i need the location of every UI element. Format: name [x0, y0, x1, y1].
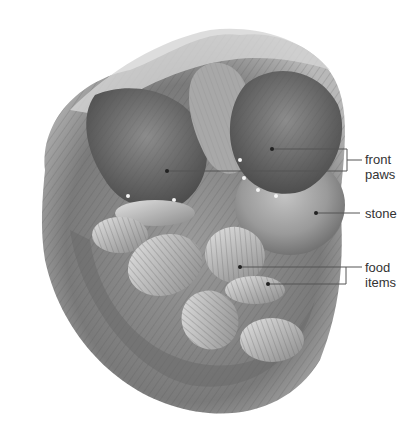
label-stone-text: stone — [365, 206, 397, 221]
illustration-drawing — [0, 0, 409, 434]
label-stone: stone — [365, 206, 397, 221]
otter-illustration: front paws stone food items — [0, 0, 409, 434]
label-front-paws-line2: paws — [365, 167, 395, 182]
label-front-paws: front paws — [365, 152, 395, 182]
label-food-items: food items — [365, 260, 396, 290]
label-food-items-line2: items — [365, 275, 396, 290]
label-front-paws-line1: front — [365, 152, 395, 167]
label-food-items-line1: food — [365, 260, 396, 275]
